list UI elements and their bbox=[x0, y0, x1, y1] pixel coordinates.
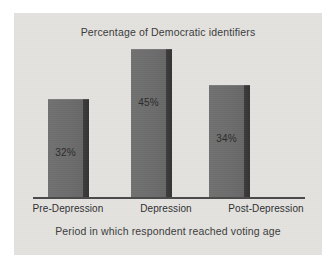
bar-pre-depression: 32% bbox=[48, 99, 89, 197]
bar-chart-figure: Percentage of Democratic identifiers 32%… bbox=[0, 0, 336, 268]
x-axis-line bbox=[33, 197, 305, 199]
bar-value-depression: 45% bbox=[131, 97, 166, 108]
chart-title: Percentage of Democratic identifiers bbox=[14, 26, 322, 38]
category-label-depression: Depression bbox=[118, 203, 214, 214]
bar-slot-depression: 45% bbox=[131, 43, 172, 197]
bar-depression: 45% bbox=[131, 49, 172, 197]
bar-slot-pre-depression: 32% bbox=[48, 43, 89, 197]
bar-post-depression: 34% bbox=[209, 85, 250, 197]
category-label-post-depression: Post-Depression bbox=[210, 203, 322, 214]
bar-value-post-depression: 34% bbox=[209, 133, 244, 144]
bar-slot-post-depression: 34% bbox=[209, 43, 250, 197]
plot-area: 32% 45% 34% bbox=[33, 43, 305, 197]
x-axis-caption: Period in which respondent reached votin… bbox=[14, 225, 322, 237]
category-label-pre-depression: Pre-Depression bbox=[14, 203, 122, 214]
bar-value-pre-depression: 32% bbox=[48, 147, 83, 158]
chart-panel: Percentage of Democratic identifiers 32%… bbox=[14, 13, 322, 255]
